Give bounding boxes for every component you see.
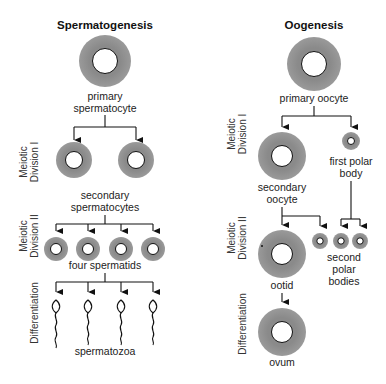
spermatid-cell (109, 237, 133, 261)
spermatogenesis-panel: Spermatogenesis primary spermatocyte sec… (18, 19, 165, 357)
svg-text:Division II: Division II (29, 214, 40, 257)
second-polar-body-cell (333, 233, 349, 249)
gametogenesis-diagram: Spermatogenesis primary spermatocyte sec… (0, 0, 386, 384)
secondary-spermatocytes-label-1: secondary (81, 189, 130, 201)
stage-label-differentiation: Differentiation (29, 282, 40, 344)
oogenesis-panel: Oogenesis primary oocyte secondary oocyt… (226, 19, 373, 368)
ootid-cell (258, 230, 306, 278)
four-spermatids-label: four spermatids (69, 259, 141, 271)
svg-text:Meiotic: Meiotic (18, 146, 29, 178)
svg-text:Differentiation: Differentiation (237, 293, 248, 355)
branch-arrows-meiosis-1 (74, 115, 136, 140)
primary-spermatocyte-label-2: spermatocyte (73, 102, 136, 114)
primary-spermatocyte-label-1: primary (87, 90, 123, 102)
stage-label-meiotic-division-1: Meiotic Division I (226, 114, 248, 155)
oocyte-branch-meiosis-1 (282, 106, 351, 127)
secondary-spermatocyte-cell (118, 142, 154, 178)
svg-text:Meiotic: Meiotic (226, 118, 237, 150)
secondary-oocyte-label-1: secondary (258, 181, 307, 193)
branch-arrows-meiosis-2 (56, 215, 153, 231)
spermatid-cell (44, 237, 68, 261)
secondary-spermatocyte-cell (56, 142, 92, 178)
svg-text:Division II: Division II (237, 216, 248, 259)
secondary-oocyte-label-2: oocyte (267, 193, 298, 205)
stage-label-meiotic-division-1: Meiotic Division I (18, 142, 40, 183)
spermatid-cell (76, 237, 100, 261)
spermatozoa-label: spermatozoa (75, 345, 136, 357)
second-polar-bodies-label-1: second (327, 251, 361, 263)
stage-label-meiotic-division-2: Meiotic Division II (18, 214, 40, 257)
spermatozoon (84, 300, 92, 345)
primary-oocyte-cell (287, 37, 341, 91)
spermatozoon (52, 300, 60, 348)
primary-spermatocyte-cell (79, 35, 131, 87)
secondary-spermatocytes-label-2: spermatocytes (71, 201, 139, 213)
second-polar-body-cell (312, 233, 328, 249)
second-polar-bodies-label-3: bodies (329, 275, 360, 287)
ootid-label: ootid (271, 279, 294, 291)
spermatozoon (117, 300, 125, 345)
stage-label-meiotic-division-2: Meiotic Division II (226, 216, 248, 259)
svg-text:Meiotic: Meiotic (226, 222, 237, 254)
oogenesis-title: Oogenesis (285, 19, 344, 31)
spermatid-cell (141, 237, 165, 261)
svg-text:Meiotic: Meiotic (18, 220, 29, 252)
first-polar-body-cell (342, 132, 360, 150)
first-polar-body-label-1: first polar (329, 155, 373, 167)
ovum-cell (258, 308, 306, 356)
svg-text:Division I: Division I (237, 114, 248, 155)
spermatozoon (149, 300, 157, 345)
primary-oocyte-label: primary oocyte (280, 92, 349, 104)
second-polar-body-cell (352, 233, 368, 249)
ovum-label: ovum (269, 356, 295, 368)
svg-text:Differentiation: Differentiation (29, 282, 40, 344)
stage-label-differentiation: Differentiation (237, 293, 248, 355)
first-polar-body-label-2: body (340, 167, 364, 179)
oocyte-branch-meiosis-2 (282, 207, 320, 226)
second-polar-bodies-label-2: polar (332, 263, 356, 275)
polar-body-branch (341, 181, 360, 226)
branch-arrows-differentiation (56, 273, 153, 292)
spermatogenesis-title: Spermatogenesis (57, 19, 153, 31)
secondary-oocyte-cell (258, 132, 306, 180)
svg-text:Division I: Division I (29, 142, 40, 183)
